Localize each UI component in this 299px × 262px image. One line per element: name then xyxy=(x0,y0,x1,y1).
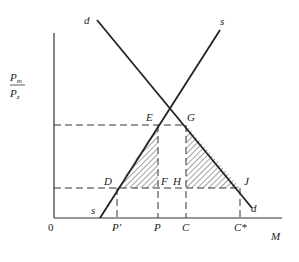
point-label-g: G xyxy=(187,111,195,123)
tick-label-c-star: C* xyxy=(234,221,247,233)
diagram-canvas: d s d s E G D F H J 0 P′ P C C* M Pm Pz xyxy=(0,0,299,262)
tick-label-p: P xyxy=(153,221,161,233)
demand-label-bottom: d xyxy=(251,202,257,214)
point-label-d: D xyxy=(103,175,112,187)
point-label-j: J xyxy=(244,175,250,187)
y-axis-label: Pm Pz xyxy=(9,71,25,101)
tick-label-c: C xyxy=(182,221,190,233)
trade-diagram: d s d s E G D F H J 0 P′ P C C* M Pm Pz xyxy=(0,0,299,262)
hatched-area-left xyxy=(117,125,158,188)
hatched-area-right xyxy=(186,125,240,188)
tick-label-p-prime: P′ xyxy=(111,221,122,233)
point-label-e: E xyxy=(145,111,153,123)
supply-label-top: s xyxy=(220,15,224,27)
supply-label-bottom: s xyxy=(91,204,95,216)
svg-text:Pz: Pz xyxy=(9,87,20,101)
point-label-f: F xyxy=(160,175,168,187)
supply-curve xyxy=(100,30,220,218)
point-label-h: H xyxy=(172,175,182,187)
origin-label: 0 xyxy=(48,221,54,233)
svg-text:Pm: Pm xyxy=(9,71,22,85)
demand-label-top: d xyxy=(84,14,90,26)
x-axis-label: M xyxy=(270,230,281,242)
